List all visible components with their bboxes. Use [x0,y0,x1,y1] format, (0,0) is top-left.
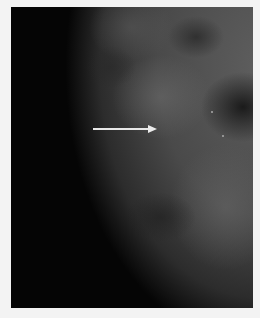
mammogram-image [11,7,253,308]
calcification-dot [222,135,224,137]
arrow-head [148,125,157,133]
annotation-arrow-icon [93,126,159,132]
arrow-shaft [93,128,150,130]
calcification-dot [211,111,213,113]
